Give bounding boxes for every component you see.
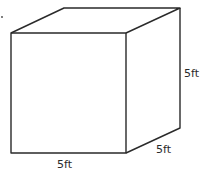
width-label: 5ft [57, 158, 73, 169]
cube-front-face [11, 33, 126, 153]
cube-top-face [11, 8, 180, 33]
height-label: 5ft [184, 67, 200, 80]
cube-diagram: 5ft 5ft 5ft [0, 0, 203, 169]
depth-label: 5ft [156, 143, 172, 156]
marker-dot [1, 16, 3, 18]
